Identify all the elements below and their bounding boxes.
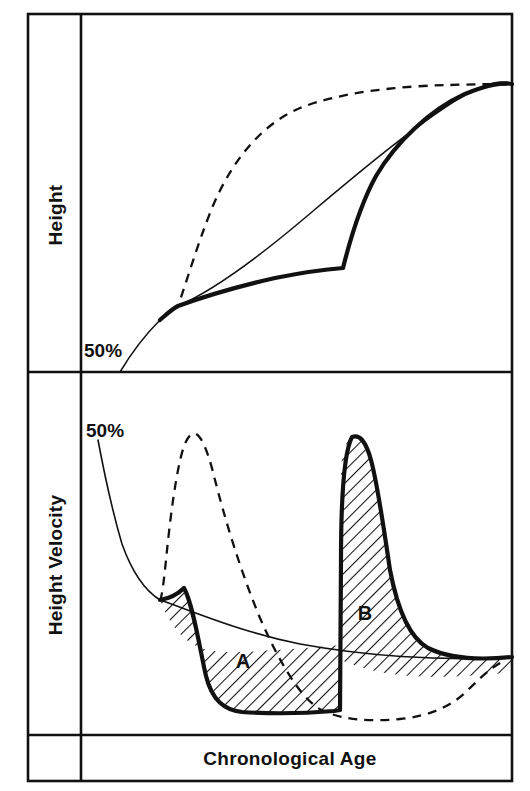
upper-early-maturer-curve bbox=[160, 84, 512, 320]
growth-chart-figure: 50% Height A B 50% Height Veloci bbox=[0, 0, 530, 791]
region-a-fill bbox=[160, 588, 341, 713]
region-b-label: B bbox=[358, 602, 372, 624]
lower-average-decline-curve bbox=[98, 440, 160, 600]
lower-average-baseline-curve bbox=[160, 600, 512, 659]
region-a-label: A bbox=[236, 650, 250, 672]
upper-percentile-label: 50% bbox=[84, 340, 122, 361]
lower-percentile-label: 50% bbox=[86, 420, 124, 441]
upper-late-maturer-curve bbox=[160, 83, 512, 320]
region-b-fill bbox=[341, 436, 512, 710]
chart-canvas: 50% Height A B 50% Height Veloci bbox=[0, 0, 530, 791]
upper-average-curve bbox=[120, 82, 512, 372]
xaxis-title: Chronological Age bbox=[203, 748, 376, 769]
lower-yaxis-title: Height Velocity bbox=[45, 495, 66, 636]
upper-yaxis-title: Height bbox=[45, 184, 66, 245]
upper-panel: 50% Height bbox=[45, 82, 512, 372]
lower-panel: A B 50% Height Velocity bbox=[45, 420, 512, 720]
